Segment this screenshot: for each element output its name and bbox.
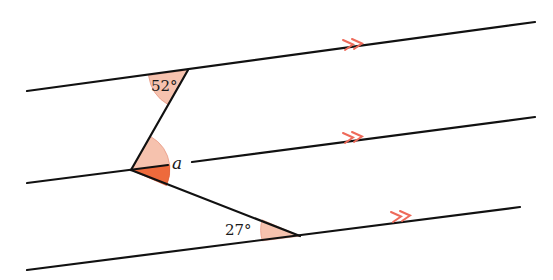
parallel-line-middle-right (192, 117, 535, 162)
angle-label-52: 52° (151, 77, 178, 95)
geometry-diagram: 52° a 27° (0, 0, 553, 280)
transversal-lower (131, 170, 300, 236)
angle-label-27: 27° (225, 221, 252, 239)
angle-label-a: a (172, 153, 182, 173)
parallel-line-top (27, 22, 535, 91)
parallel-marker-top-icon (343, 39, 362, 50)
parallel-line-bottom (27, 207, 520, 270)
